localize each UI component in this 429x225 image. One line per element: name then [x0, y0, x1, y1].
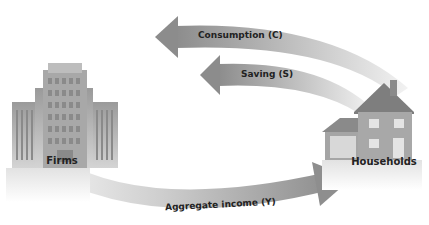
firms-label: Firms: [46, 155, 78, 166]
circular-flow-diagram: Firms Households Consumption (C) Saving …: [0, 0, 429, 225]
consumption-label: Consumption (C): [198, 30, 283, 40]
saving-label: Saving (S): [241, 69, 293, 79]
households-label: Households: [351, 156, 417, 167]
